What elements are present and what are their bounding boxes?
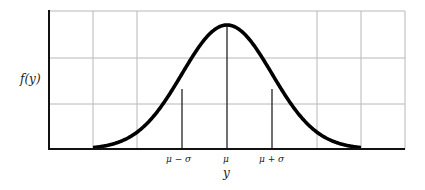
x-axis-label: y [223,166,230,180]
tick-mu: μ [223,154,229,164]
normal-curve-chart [0,0,425,190]
sigma-markers [182,25,272,149]
tick-mu-plus-sigma: μ + σ [259,154,284,164]
tick-mu-minus-sigma: μ − σ [166,154,191,164]
y-axis-label: f(y) [20,72,41,86]
